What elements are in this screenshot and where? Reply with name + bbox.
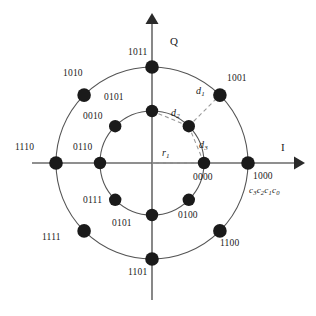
point-label-outer-1000: 1000	[253, 172, 273, 182]
point-inner-45deg	[183, 120, 195, 132]
point-label-inner-0101-top: 0101	[104, 93, 124, 103]
point-label-outer-1001: 1001	[227, 74, 247, 84]
point-label-inner-0010: 0010	[83, 112, 103, 122]
point-label-outer-1101: 1101	[128, 268, 147, 278]
point-inner-0101-bottom	[146, 209, 158, 221]
bit-c3-sub: 3	[253, 189, 256, 196]
point-outer-1100	[213, 224, 227, 238]
point-inner-0100	[183, 194, 195, 206]
i-axis-arrowhead	[294, 157, 305, 170]
point-label-inner-0100: 0100	[178, 211, 198, 221]
d3-annotation-label: d3	[199, 140, 208, 150]
bit-c1-sub: 1	[269, 189, 272, 196]
point-label-outer-1111: 1111	[42, 233, 61, 243]
bit-order-caption: c3c2c1c0	[249, 186, 280, 195]
bit-c1: c	[264, 185, 268, 195]
bit-c0-sub: 0	[276, 189, 279, 196]
point-outer-1111	[77, 224, 91, 238]
q-axis-label: Q	[170, 36, 178, 47]
point-outer-1000	[241, 156, 255, 170]
point-outer-1010	[77, 88, 91, 102]
point-outer-1001	[213, 88, 227, 102]
d1-subscript: 1	[201, 90, 205, 98]
point-label-inner-0000: 0000	[193, 173, 213, 183]
d1-annotation-label: d1	[196, 86, 205, 96]
point-outer-1110	[49, 156, 63, 170]
point-inner-0101-top	[146, 105, 158, 117]
d2-subscript: 2	[176, 112, 180, 120]
point-inner-0110	[94, 157, 106, 169]
constellation-canvas	[0, 0, 316, 316]
point-label-inner-0101-bottom: 0101	[112, 219, 132, 229]
point-label-inner-0110: 0110	[73, 143, 92, 153]
i-axis-label: I	[281, 142, 285, 153]
point-inner-0111	[109, 194, 121, 206]
point-label-outer-1100: 1100	[220, 239, 239, 249]
q-axis-arrowhead	[146, 13, 159, 24]
constellation-figure: I Q 1011 1010 1110 1111 1101 1100 1001 1…	[0, 0, 316, 316]
d3-subscript: 3	[204, 144, 208, 152]
point-outer-1101	[145, 252, 159, 266]
point-label-outer-1011: 1011	[128, 48, 147, 58]
point-label-outer-1010: 1010	[63, 69, 83, 79]
point-outer-1011	[145, 60, 159, 74]
bit-c2-sub: 2	[261, 189, 264, 196]
point-inner-0010	[109, 120, 121, 132]
r1-subscript: 1	[166, 152, 170, 160]
point-label-outer-1110: 1110	[15, 143, 34, 153]
point-inner-0000	[198, 157, 210, 169]
d2-annotation-label: d2	[171, 108, 180, 118]
r1-annotation-label: r1	[162, 148, 170, 158]
point-label-inner-0111: 0111	[83, 196, 102, 206]
